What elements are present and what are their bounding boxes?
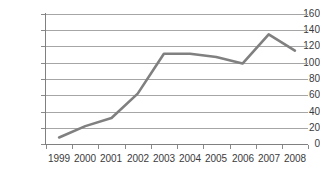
line-chart: 160 140 120 100 80 60 40 20 0 [0, 0, 320, 174]
series-line [59, 34, 295, 137]
series-layer [0, 0, 320, 174]
